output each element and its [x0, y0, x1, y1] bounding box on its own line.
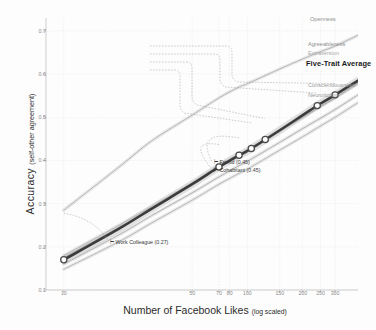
- inplot-annotation: ⊢ Friend (0.45): [214, 159, 250, 165]
- x-tick-label: 300: [331, 290, 340, 296]
- x-tick-label: 100: [243, 290, 252, 296]
- y-tick-label: 0.7: [30, 28, 46, 34]
- series-label: Openness: [310, 16, 336, 22]
- x-axis-title-sub: (log scaled): [252, 308, 287, 315]
- series-label: Conscientiousness: [308, 82, 355, 88]
- series-label: Agreeableness: [308, 41, 345, 47]
- series-label: Five-Trait Average: [306, 59, 371, 68]
- series-label: Extraversion: [308, 50, 339, 56]
- x-axis-ticks: 10507080100150200250300: [0, 288, 376, 300]
- x-tick-label: 10: [61, 290, 67, 296]
- y-axis-title-sub: (self-other agreement): [27, 94, 36, 165]
- x-tick-label: 70: [216, 290, 222, 296]
- inplot-annotation: ⊢ Work Colleague (0.27): [110, 239, 168, 245]
- y-axis-title: Accuracy (self-other agreement): [24, 44, 36, 264]
- x-tick-label: 250: [316, 290, 325, 296]
- inplot-annotation: ⊢ Cohabitant (0.45): [214, 167, 260, 173]
- x-tick-label: 150: [275, 290, 284, 296]
- x-tick-label: 200: [298, 290, 307, 296]
- x-axis-title: Number of Facebook Likes (log scaled): [55, 304, 355, 316]
- x-axis-title-main: Number of Facebook Likes: [123, 304, 248, 316]
- chart-figure: 0.70.60.50.40.30.20.1 105070801001502002…: [0, 0, 376, 330]
- series-label: Neuroticism: [308, 92, 338, 98]
- x-tick-label: 50: [189, 290, 195, 296]
- y-axis-title-main: Accuracy: [24, 168, 36, 214]
- x-tick-label: 80: [227, 290, 233, 296]
- series-lines: [64, 35, 358, 269]
